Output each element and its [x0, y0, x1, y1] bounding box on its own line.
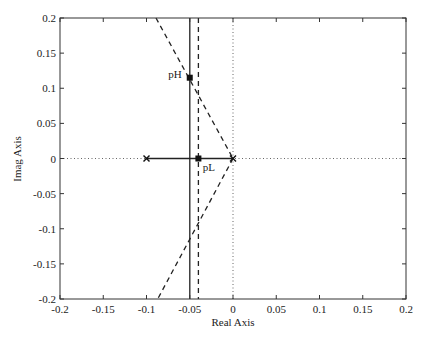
x-tick-label: -0.15 [92, 303, 115, 315]
pL-square-marker [195, 156, 201, 162]
x-tick-label: 0.15 [353, 303, 373, 315]
y-tick-label: 0.05 [37, 117, 57, 129]
x-tick-label: -0.05 [178, 303, 201, 315]
annotation-pH: pH [168, 68, 182, 80]
y-tick-label: 0 [51, 153, 57, 165]
y-tick-label: -0.2 [39, 293, 56, 305]
y-tick-label: 0.15 [37, 47, 57, 59]
lower-dashed-asymptote-line [158, 159, 233, 300]
annotation-pL: pL [203, 161, 216, 173]
x-tick-label: 0.2 [399, 303, 413, 315]
x-tick-label: -0.1 [138, 303, 155, 315]
x-axis-ticks: -0.2-0.15-0.1-0.0500.050.10.150.2 [51, 18, 413, 315]
y-tick-label: 0.1 [42, 82, 56, 94]
y-tick-label: -0.15 [33, 258, 56, 270]
locus-series [147, 18, 234, 299]
x-tick-label: 0.1 [313, 303, 327, 315]
x-axis-label: Real Axis [211, 316, 254, 328]
x-tick-label: 0.05 [267, 303, 287, 315]
y-tick-label: -0.1 [39, 223, 56, 235]
y-tick-label: 0.2 [42, 12, 56, 24]
upper-dashed-asymptote-line [156, 18, 233, 159]
x-tick-label: 0 [230, 303, 236, 315]
pH-square-marker [187, 75, 193, 81]
y-tick-label: -0.05 [33, 188, 56, 200]
y-axis-label: Imag Axis [11, 136, 23, 182]
root-locus-plot: -0.2-0.15-0.1-0.0500.050.10.150.2 0.20.1… [0, 0, 429, 340]
